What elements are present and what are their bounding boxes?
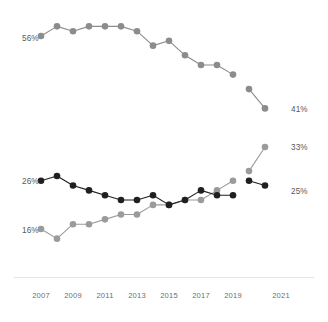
data-point[interactable]: [246, 86, 253, 93]
series-line-top-gray-series: [249, 89, 265, 108]
data-point[interactable]: [38, 226, 45, 233]
data-point[interactable]: [118, 197, 125, 204]
data-point[interactable]: [246, 177, 253, 184]
label-33-percent: 33%: [291, 143, 308, 152]
data-point[interactable]: [54, 173, 61, 180]
x-tick-label: 2009: [64, 291, 82, 300]
x-axis-tick-labels: 20072009201120132015201720192021: [32, 291, 290, 300]
line-chart: 20072009201120132015201720192021 56% 41%…: [0, 0, 328, 322]
series-line-bottom-gray-series: [41, 181, 233, 239]
x-tick-label: 2021: [272, 291, 290, 300]
x-tick-label: 2017: [192, 291, 210, 300]
data-point[interactable]: [70, 28, 77, 35]
data-point[interactable]: [230, 177, 237, 184]
data-point[interactable]: [150, 42, 157, 49]
data-point[interactable]: [214, 62, 221, 69]
data-point[interactable]: [38, 177, 45, 184]
data-point[interactable]: [118, 23, 125, 30]
data-point[interactable]: [150, 202, 157, 209]
data-point[interactable]: [262, 182, 269, 189]
x-tick-label: 2019: [224, 291, 242, 300]
data-point[interactable]: [134, 211, 141, 218]
data-point[interactable]: [198, 187, 205, 194]
label-56-percent: 56%: [22, 34, 39, 43]
series-line-bottom-gray-series: [249, 147, 265, 171]
chart-canvas: 20072009201120132015201720192021 56% 41%…: [0, 0, 328, 322]
data-point[interactable]: [86, 187, 93, 194]
series-top-gray: [38, 23, 269, 112]
data-point[interactable]: [150, 192, 157, 199]
data-point[interactable]: [214, 192, 221, 199]
data-point[interactable]: [102, 216, 109, 223]
data-point[interactable]: [70, 221, 77, 228]
data-point[interactable]: [182, 197, 189, 204]
label-26-percent: 26%: [22, 177, 39, 186]
label-16-percent: 16%: [22, 226, 39, 235]
data-point[interactable]: [86, 23, 93, 30]
data-point[interactable]: [134, 197, 141, 204]
x-tick-label: 2013: [128, 291, 146, 300]
data-point[interactable]: [230, 71, 237, 78]
data-point[interactable]: [102, 192, 109, 199]
x-tick-label: 2011: [96, 291, 113, 300]
data-point[interactable]: [166, 202, 173, 209]
data-point[interactable]: [54, 23, 61, 30]
data-point[interactable]: [118, 211, 125, 218]
x-tick-label: 2015: [160, 291, 178, 300]
data-point[interactable]: [198, 62, 205, 69]
x-tick-label: 2007: [32, 291, 50, 300]
data-point[interactable]: [262, 105, 269, 112]
data-point[interactable]: [246, 168, 253, 175]
data-point[interactable]: [70, 182, 77, 189]
data-point[interactable]: [86, 221, 93, 228]
data-point[interactable]: [54, 235, 61, 242]
label-25-percent: 25%: [291, 187, 308, 196]
data-point[interactable]: [38, 33, 45, 40]
data-point[interactable]: [102, 23, 109, 30]
data-point[interactable]: [230, 192, 237, 199]
data-point[interactable]: [198, 197, 205, 204]
data-point[interactable]: [166, 38, 173, 45]
data-point[interactable]: [134, 28, 141, 35]
data-point[interactable]: [182, 52, 189, 59]
label-41-percent: 41%: [291, 105, 308, 114]
data-point[interactable]: [262, 144, 269, 151]
